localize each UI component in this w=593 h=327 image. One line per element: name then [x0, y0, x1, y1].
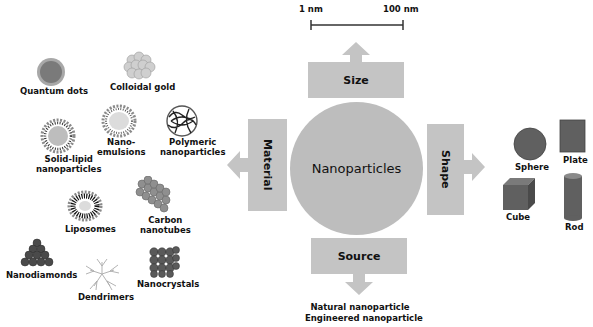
- material-liposomes: Liposomes: [65, 224, 116, 234]
- sphere-icon: [513, 127, 547, 161]
- material-carbon-nanotubes: Carbon nanotubes: [140, 215, 191, 235]
- shape-plate: Plate: [563, 155, 588, 165]
- material-nano-emulsions: Nano- emulsions: [97, 137, 146, 157]
- material-box: Material: [248, 119, 287, 211]
- polymeric-icon: [163, 103, 201, 139]
- liposome-icon: [67, 190, 103, 222]
- colloidal-gold-icon: [122, 50, 156, 82]
- quantum-dot-icon: [35, 56, 67, 88]
- source-box: Source: [311, 238, 407, 274]
- source-item-natural: Natural nanoparticle: [310, 302, 410, 312]
- carbon-nanotube-icon: [134, 176, 174, 216]
- material-arrow-icon: [227, 150, 249, 180]
- source-arrow-icon: [344, 273, 374, 295]
- rod-icon: [562, 172, 584, 222]
- shape-cube: Cube: [506, 212, 530, 222]
- shape-box: Shape: [427, 124, 464, 215]
- material-label: Material: [261, 139, 274, 190]
- dendrimer-icon: [82, 256, 122, 292]
- source-item-engineered: Engineered nanoparticle: [305, 313, 415, 323]
- shape-sphere: Sphere: [515, 162, 549, 172]
- material-dendrimers: Dendrimers: [78, 292, 134, 302]
- source-label: Source: [338, 250, 381, 263]
- scale-min-label: 1 nm: [299, 4, 323, 14]
- cube-icon: [502, 177, 536, 211]
- material-nanocrystals: Nanocrystals: [137, 279, 199, 289]
- material-polymeric: Polymeric nanoparticles: [160, 137, 225, 157]
- shape-rod: Rod: [565, 222, 583, 232]
- plate-icon: [559, 119, 587, 153]
- nanodiamond-icon: [20, 238, 54, 268]
- shape-label: Shape: [439, 150, 452, 189]
- material-quantum-dots: Quantum dots: [20, 86, 88, 96]
- nanoemulsion-icon: [101, 104, 137, 138]
- size-label: Size: [343, 74, 369, 87]
- solid-lipid-icon: [40, 118, 76, 154]
- size-box: Size: [308, 62, 404, 98]
- scale-bar: [310, 18, 405, 32]
- scale-max-label: 100 nm: [383, 4, 419, 14]
- material-nanodiamonds: Nanodiamonds: [6, 270, 77, 280]
- material-solid-lipid: Solid-lipid nanoparticles: [36, 154, 101, 174]
- shape-arrow-icon: [463, 152, 485, 182]
- nanocrystal-icon: [147, 246, 181, 278]
- nanoparticles-circle: Nanoparticles: [290, 102, 423, 235]
- material-colloidal-gold: Colloidal gold: [110, 82, 175, 92]
- size-arrow-icon: [340, 42, 372, 64]
- center-title: Nanoparticles: [312, 161, 402, 176]
